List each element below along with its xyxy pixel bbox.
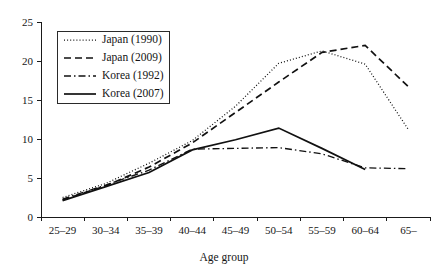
y-tick-label: 15	[22, 94, 34, 106]
x-axis-title: Age group	[200, 251, 249, 264]
line-chart-canvas: 0510152025 25–2930–3435–3940–4445–4950–5…	[0, 0, 438, 270]
x-tick-label: 30–34	[92, 224, 120, 236]
series-line-korea-2007	[63, 128, 366, 201]
x-tick-label: 65–	[400, 224, 417, 236]
y-tick-label: 5	[28, 172, 34, 184]
x-tick-label: 40–44	[179, 224, 207, 236]
legend-label: Korea (2007)	[102, 87, 164, 100]
x-tick-group: 25–2930–3435–3940–4445–4950–5455–5960–64…	[41, 217, 430, 236]
y-tick-label: 25	[22, 16, 34, 28]
chart-legend: Japan (1990)Japan (2009)Korea (1992)Kore…	[57, 31, 169, 103]
x-tick-label: 55–59	[308, 224, 336, 236]
y-axis-group: 0510152025	[22, 16, 41, 223]
x-tick-label: 50–54	[265, 224, 293, 236]
y-tick-label: 0	[28, 211, 34, 223]
y-tick-label: 20	[22, 55, 34, 67]
y-tick-group: 0510152025	[22, 16, 41, 223]
legend-label: Japan (2009)	[102, 51, 162, 64]
legend-label: Japan (1990)	[102, 33, 162, 46]
series-line-korea-1992	[63, 148, 409, 199]
legend-label: Korea (1992)	[102, 69, 164, 82]
x-tick-label: 45–49	[222, 224, 250, 236]
x-tick-label: 60–64	[351, 224, 379, 236]
y-tick-label: 10	[22, 133, 34, 145]
chart-figure: 0510152025 25–2930–3435–3940–4445–4950–5…	[0, 0, 438, 270]
x-tick-label: 25–29	[49, 224, 77, 236]
x-tick-label: 35–39	[135, 224, 163, 236]
x-axis-group: 25–2930–3435–3940–4445–4950–5455–5960–64…	[41, 217, 430, 236]
